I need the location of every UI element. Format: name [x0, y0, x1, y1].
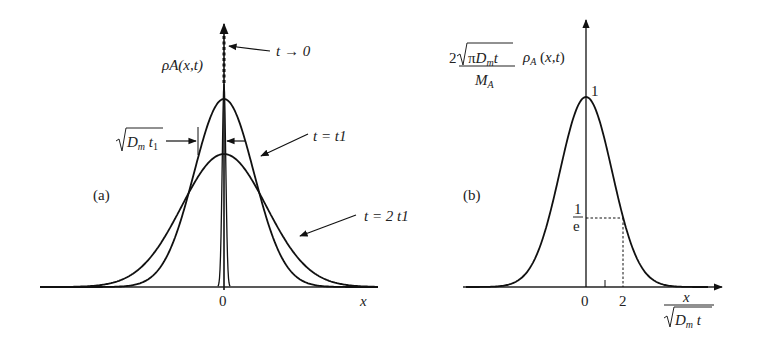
level-label-den: e: [573, 218, 580, 234]
level-label-num: 1: [574, 201, 582, 217]
arrow-t-two: [300, 215, 356, 236]
svg-text:x: x: [682, 289, 690, 305]
panel-a-y-label: ρA(x,t): [161, 57, 203, 74]
tick-label-2: 2: [619, 293, 627, 309]
svg-text:ρA (x,t): ρA (x,t): [522, 49, 565, 67]
label-t-one: t = t1: [313, 128, 346, 144]
panel-b-y-label: 2 πDmt MA ρA (x,t): [449, 43, 565, 90]
panel-b-curve: [466, 97, 708, 287]
panel-a: ρA(x,t) 0 x (a) t → 0 t = t1 t = 2 t1 Dm…: [40, 24, 409, 309]
label-t-zero: t → 0: [276, 43, 311, 59]
panel-a-origin-label: 0: [219, 293, 227, 309]
svg-text:Dm t1: Dm t1: [126, 134, 158, 152]
svg-text:πDmt: πDmt: [468, 50, 499, 68]
svg-text:MA: MA: [474, 72, 495, 90]
label-t-two: t = 2 t1: [364, 208, 409, 224]
panel-b-tag: (b): [463, 187, 481, 204]
panel-a-tag: (a): [93, 187, 110, 204]
arrow-t-one: [261, 134, 308, 156]
panel-a-x-label: x: [359, 293, 367, 309]
width-label: Dm t1: [116, 128, 163, 152]
arrow-t-zero: [229, 46, 270, 51]
peak-label: 1: [591, 83, 599, 99]
panel-b: 1 0 2 (b) 1 e 2 πDmt MA ρA (x,t) x Dm t: [449, 20, 722, 330]
panel-b-x-label: x Dm t: [664, 289, 714, 330]
panel-a-curve-2t1: [40, 154, 378, 287]
svg-text:Dm t: Dm t: [674, 312, 702, 330]
tick-label-0: 0: [581, 293, 589, 309]
diffusion-figure: ρA(x,t) 0 x (a) t → 0 t = t1 t = 2 t1 Dm…: [0, 0, 758, 348]
svg-text:2: 2: [449, 50, 457, 66]
